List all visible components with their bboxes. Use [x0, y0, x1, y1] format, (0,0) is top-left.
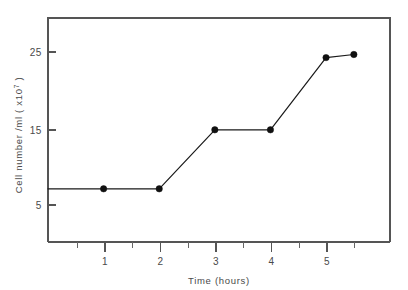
x-tick-label-3: 3 — [213, 256, 219, 267]
y-tick-label-15: 15 — [30, 125, 42, 136]
svg-text:Cell number /ml ( x107 ): Cell number /ml ( x107 ) — [13, 77, 25, 194]
x-tick-label-2: 2 — [157, 256, 163, 267]
y-axis-title: Cell number /ml ( x107 ) — [13, 77, 25, 194]
data-series-line — [48, 54, 354, 188]
data-point-marker — [156, 186, 162, 192]
x-tick-label-4: 4 — [268, 256, 274, 267]
y-axis-title-main: Cell number /ml ( x10 — [13, 88, 24, 193]
chart-page: 25 15 5 1 2 3 4 5 Time (hours) — [0, 0, 408, 290]
data-point-marker — [267, 127, 273, 133]
y-axis-title-end: ) — [13, 77, 24, 84]
y-axis-ticks — [48, 52, 56, 205]
data-point-marker — [323, 54, 329, 60]
x-tick-label-5: 5 — [324, 256, 330, 267]
line-chart: 25 15 5 1 2 3 4 5 Time (hours) — [0, 0, 408, 290]
data-point-marker — [351, 51, 357, 57]
x-tick-label-1: 1 — [102, 256, 108, 267]
data-markers-group — [100, 51, 357, 192]
data-point-marker — [212, 127, 218, 133]
x-axis-title: Time (hours) — [188, 275, 250, 286]
y-tick-label-5: 5 — [36, 200, 42, 211]
y-tick-label-25: 25 — [30, 47, 42, 58]
data-point-marker — [100, 186, 106, 192]
x-axis-major-ticks — [105, 242, 327, 252]
